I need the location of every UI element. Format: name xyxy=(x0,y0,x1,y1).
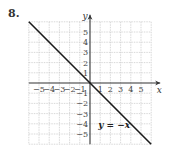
y-tick-label: −5 xyxy=(76,130,88,139)
chart: −5−4−3−2−11234554321−1−2−3−4−5 xyy = −x xyxy=(0,0,173,152)
y-axis-label: y xyxy=(81,11,88,21)
y-tick-label: −4 xyxy=(76,120,88,129)
y-tick-label: 3 xyxy=(83,48,88,57)
y-tick-label: 4 xyxy=(83,38,88,47)
y-tick-label: −3 xyxy=(76,110,88,119)
y-tick-label: 5 xyxy=(83,28,88,37)
equation-label: y = −x xyxy=(97,120,131,130)
axes xyxy=(29,15,160,144)
x-tick-label: 4 xyxy=(128,85,133,94)
y-tick-label: 2 xyxy=(83,59,88,68)
x-tick-label: 5 xyxy=(138,85,143,94)
x-axis-label: x xyxy=(157,85,162,95)
y-tick-label: −2 xyxy=(76,99,88,108)
x-tick-label: 3 xyxy=(118,85,123,94)
x-tick-label: 2 xyxy=(108,85,113,94)
labels: xyy = −x xyxy=(81,11,161,130)
y-tick-label: −1 xyxy=(76,89,88,98)
